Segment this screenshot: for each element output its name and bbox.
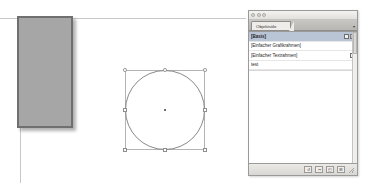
tab-label: Objektstile xyxy=(256,24,277,29)
list-item[interactable]: test xyxy=(249,61,357,71)
selection-handle-top-center[interactable] xyxy=(163,68,167,72)
gray-rectangle-object[interactable] xyxy=(17,16,73,128)
panel-bottom-toolbar[interactable]: ↺ ✂ ◰ ☒ xyxy=(249,163,357,175)
list-item[interactable]: [Basis] xyxy=(249,32,357,42)
list-item[interactable]: [Einfacher Grafikrahmen] xyxy=(249,42,357,52)
minimize-icon[interactable] xyxy=(257,13,261,17)
panel-scrollbar[interactable] xyxy=(352,32,357,163)
selection-handle-bottom-center[interactable] xyxy=(163,148,167,152)
close-icon[interactable] xyxy=(251,13,255,17)
selection-handle-bottom-left[interactable] xyxy=(123,148,127,152)
frame-icon[interactable] xyxy=(344,34,349,39)
break-link-to-style-button[interactable]: ✂ xyxy=(315,166,323,173)
selection-handle-top-left[interactable] xyxy=(123,68,127,72)
selection-handle-bottom-right[interactable] xyxy=(203,148,207,152)
list-empty-area xyxy=(249,70,357,163)
style-name-label: [Einfacher Grafikrahmen] xyxy=(251,43,355,48)
panel-titlebar[interactable] xyxy=(249,11,357,20)
list-item[interactable]: [Einfacher Textrahmen] xyxy=(249,51,357,61)
new-style-button[interactable]: ◰ xyxy=(326,166,334,173)
delete-style-button[interactable]: ☒ xyxy=(337,166,345,173)
scrollbar-thumb[interactable] xyxy=(353,32,357,54)
panel-resize-grip[interactable] xyxy=(348,167,354,173)
panel-tabstrip: Objektstile ▾ xyxy=(249,20,357,31)
ellipse-object-group[interactable] xyxy=(125,70,205,150)
panel-menu-icon[interactable]: ▾ xyxy=(353,25,355,29)
object-styles-list[interactable]: [Basis] [Einfacher Grafikrahmen] [Einfac… xyxy=(249,31,357,163)
center-point-icon xyxy=(164,109,166,111)
selection-handle-middle-right[interactable] xyxy=(203,108,207,112)
style-name-label: [Basis] xyxy=(251,34,344,39)
selection-handle-middle-left[interactable] xyxy=(123,108,127,112)
tab-objektstile[interactable]: Objektstile xyxy=(251,21,291,30)
object-styles-panel[interactable]: Objektstile ▾ [Basis] [Einfacher Grafikr… xyxy=(248,10,358,176)
selection-handle-top-right[interactable] xyxy=(203,68,207,72)
style-name-label: [Einfacher Textrahmen] xyxy=(251,53,350,58)
zoom-icon[interactable] xyxy=(262,13,266,17)
style-name-label: test xyxy=(251,62,355,67)
clear-overrides-button[interactable]: ↺ xyxy=(304,166,312,173)
